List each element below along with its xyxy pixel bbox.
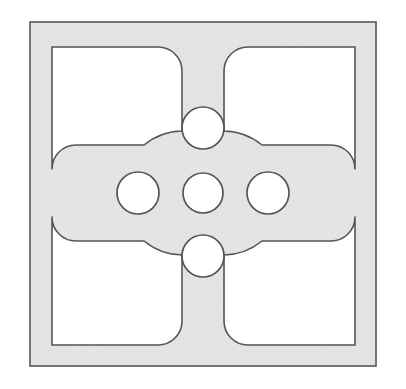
top-hole xyxy=(182,107,224,149)
center-hole xyxy=(183,173,223,213)
bottom-hole xyxy=(182,235,224,277)
left-hole xyxy=(117,172,159,214)
right-hole xyxy=(247,172,289,214)
figure-canvas: Perforated square plate with cruciform w… xyxy=(0,0,406,389)
perforated-plate-drawing xyxy=(0,0,406,389)
